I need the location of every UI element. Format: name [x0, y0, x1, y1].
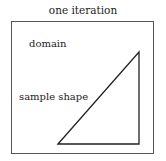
sample-shape-triangle: [0, 0, 166, 161]
